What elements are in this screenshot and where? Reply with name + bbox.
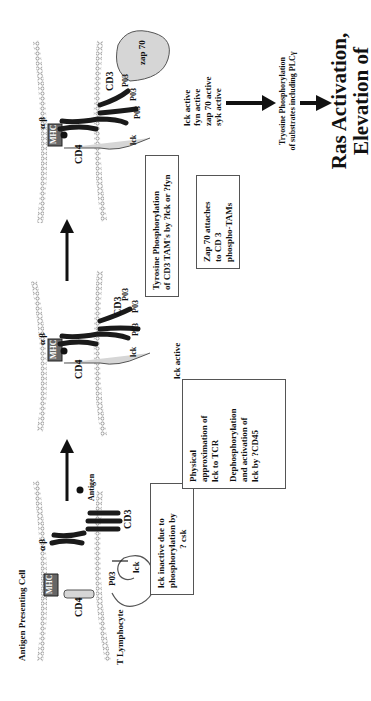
downstream-text: Tryosine Phosphorylation of substrates i…: [278, 41, 297, 161]
diagram-stage: Antigen Presenting Cell T Lymphocyte MHC…: [0, 0, 371, 701]
outcome-text: Ras Activation, Elevation of: [328, 26, 371, 176]
downstream-arrows: [0, 0, 371, 701]
downstream-line: of substrates including PLCγ: [288, 41, 298, 161]
outcome-line: Elevation of: [350, 26, 371, 176]
outcome-line: Ras Activation,: [328, 26, 350, 176]
downstream-line: Tryosine Phosphorylation: [278, 41, 288, 161]
